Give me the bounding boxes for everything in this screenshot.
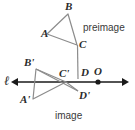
label-o: O [94, 66, 102, 77]
preimage-triangle [47, 14, 77, 45]
point-o-dot [95, 79, 100, 84]
segment-cd [78, 45, 79, 79]
label-b: B [65, 1, 72, 12]
label-line-l: ℓ [4, 74, 9, 87]
label-preimage: preimage [83, 23, 125, 33]
label-c: C [79, 39, 86, 50]
label-d: D [81, 67, 89, 78]
label-a: A [41, 28, 48, 39]
segment-b1-through-c1 [36, 69, 78, 91]
label-a-prime: A' [20, 94, 30, 105]
triangle-abc-path [47, 14, 77, 45]
label-c-prime: C' [59, 68, 69, 79]
label-d-prime: D' [79, 90, 90, 101]
geometry-figure: A B C D O A' B' C' D' ℓ preimage image [0, 0, 135, 130]
label-image: image [55, 111, 82, 121]
label-b-prime: B' [24, 57, 34, 68]
